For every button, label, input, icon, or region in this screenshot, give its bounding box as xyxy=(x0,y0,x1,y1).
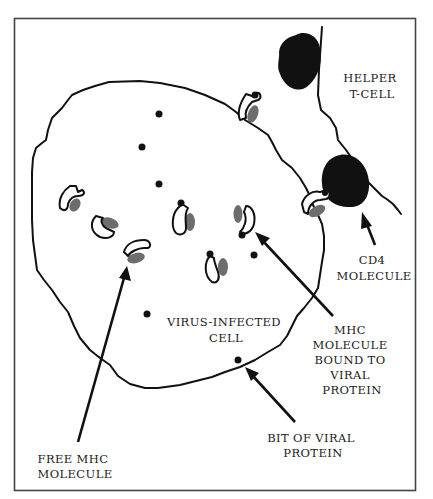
viral-protein-dot xyxy=(235,357,242,364)
viral-protein-dot xyxy=(156,181,163,188)
viral-protein-dot xyxy=(251,252,258,259)
mhc-diagram: HELPER T-CELL CD4 MOLECULE VIRUS-INFECTE… xyxy=(0,0,433,499)
viral-protein-dot xyxy=(139,144,146,151)
viral-protein-dot xyxy=(156,111,163,118)
viral-protein-dot xyxy=(144,311,151,318)
label-free-mhc: FREE MHC MOLECULE xyxy=(38,452,113,481)
